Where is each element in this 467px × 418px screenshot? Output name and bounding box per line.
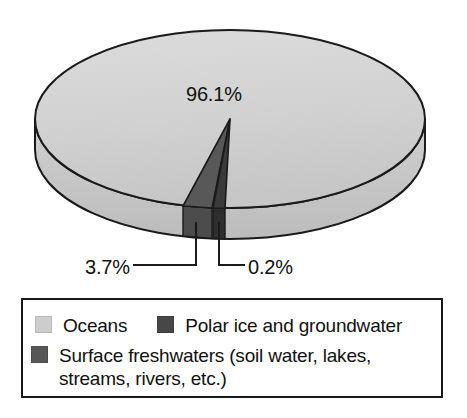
legend-swatch-surface-freshwaters <box>31 346 48 363</box>
legend-entry-polar-ice[interactable]: Polar ice and groundwater <box>157 314 402 337</box>
slice-label-surface-freshwaters: 3.7% <box>85 256 130 279</box>
legend-swatch-oceans <box>35 316 52 333</box>
slice-label-polar-ice: 0.2% <box>248 256 293 279</box>
legend-row-top: Oceans Polar ice and groundwater <box>35 314 435 337</box>
pie-plot-area: 96.1% 3.7% 0.2% <box>0 0 467 296</box>
chart-legend: Oceans Polar ice and groundwater Surface… <box>21 298 443 398</box>
legend-row-bottom: Surface freshwaters (soil water, lakes, … <box>31 344 437 390</box>
legend-entry-surface-freshwaters[interactable]: Surface freshwaters (soil water, lakes, … <box>31 344 371 390</box>
slice-label-oceans: 96.1% <box>186 83 242 106</box>
legend-entry-oceans[interactable]: Oceans <box>35 314 127 337</box>
legend-swatch-polar-ice <box>157 316 174 333</box>
legend-label-oceans: Oceans <box>63 314 127 337</box>
pie-svg <box>0 0 467 296</box>
pie-chart-figure: 96.1% 3.7% 0.2% Oceans Polar ice and gro… <box>0 0 467 418</box>
legend-label-surface-freshwaters: Surface freshwaters (soil water, lakes, … <box>59 344 371 390</box>
legend-label-polar-ice: Polar ice and groundwater <box>185 314 402 337</box>
